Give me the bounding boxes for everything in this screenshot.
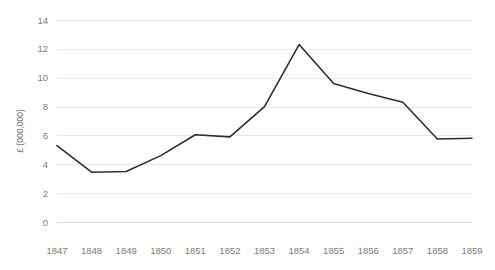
x-axis-tick-labels: 1847184818491850185118521853185418551856… bbox=[46, 245, 482, 256]
y-tick-label: 6 bbox=[43, 130, 48, 141]
x-tick-label: 1852 bbox=[219, 245, 240, 256]
x-tick-label: 1850 bbox=[150, 245, 171, 256]
y-tick-label: 0 bbox=[43, 217, 48, 228]
gridlines bbox=[57, 21, 472, 223]
x-tick-label: 1859 bbox=[461, 245, 482, 256]
x-tick-label: 1853 bbox=[254, 245, 275, 256]
x-tick-label: 1854 bbox=[289, 245, 310, 256]
y-tick-label: 10 bbox=[37, 72, 48, 83]
x-tick-label: 1847 bbox=[46, 245, 67, 256]
x-tick-label: 1857 bbox=[392, 245, 413, 256]
y-axis-title: £ (000,000) bbox=[15, 109, 25, 153]
y-tick-label: 2 bbox=[43, 188, 48, 199]
y-tick-label: 4 bbox=[43, 159, 48, 170]
y-tick-label: 12 bbox=[37, 43, 48, 54]
y-tick-label: 8 bbox=[43, 101, 48, 112]
x-tick-label: 1858 bbox=[427, 245, 448, 256]
x-tick-label: 1855 bbox=[323, 245, 344, 256]
data-series-line bbox=[57, 45, 472, 173]
x-tick-label: 1851 bbox=[185, 245, 206, 256]
y-tick-label: 14 bbox=[37, 15, 48, 26]
x-tick-label: 1856 bbox=[358, 245, 379, 256]
y-axis-tick-labels: 02468101214 bbox=[37, 15, 48, 228]
line-chart: 02468101214 1847184818491850185118521853… bbox=[0, 0, 495, 270]
x-tick-label: 1849 bbox=[116, 245, 137, 256]
chart-canvas: 02468101214 1847184818491850185118521853… bbox=[0, 0, 495, 270]
x-tick-label: 1848 bbox=[81, 245, 102, 256]
